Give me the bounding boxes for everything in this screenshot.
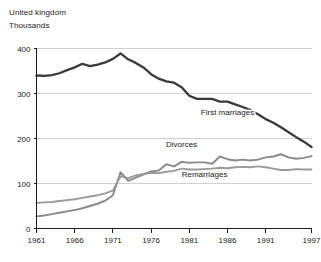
x-tick-label-1986: 1986 <box>219 236 237 245</box>
x-tick-label-1961: 1961 <box>28 236 46 245</box>
series-label-remarriages: Remarriages <box>182 170 228 179</box>
x-tick-label-1997: 1997 <box>303 236 321 245</box>
x-tick-labels-group: 19611966197119761981198619911997 <box>28 236 321 245</box>
x-tick-label-1981: 1981 <box>180 236 198 245</box>
x-tick-label-1966: 1966 <box>66 236 84 245</box>
x-tick-label-1971: 1971 <box>104 236 122 245</box>
series-line-first-marriages <box>37 53 312 147</box>
y-tick-labels-group: 0100200300400 <box>17 45 31 234</box>
y-tick-label-300: 300 <box>17 90 31 99</box>
series-label-divorces: Divorces <box>166 140 197 149</box>
y-tick-label-100: 100 <box>17 180 31 189</box>
y-tick-label-400: 400 <box>17 45 31 54</box>
y-tick-label-200: 200 <box>17 135 31 144</box>
series-lines-group <box>37 53 312 216</box>
series-label-first-marriages: First marriages <box>201 108 254 117</box>
series-line-divorces <box>37 154 312 216</box>
y-tick-label-0: 0 <box>26 225 31 234</box>
chart-figure: United kingdom Thousands 0100200300400 1… <box>0 0 321 262</box>
series-line-remarriages <box>37 166 312 202</box>
line-chart-plot: 0100200300400 19611966197119761981198619… <box>0 0 321 262</box>
x-tick-label-1991: 1991 <box>257 236 275 245</box>
gridlines-group <box>37 49 312 184</box>
x-tick-label-1976: 1976 <box>142 236 160 245</box>
